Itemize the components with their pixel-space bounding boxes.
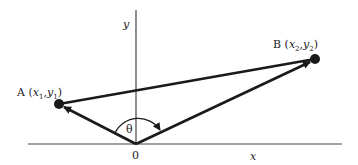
point-b-name: B [273,38,281,51]
y-axis-label: y [122,18,130,31]
angle-arc [115,118,160,133]
line-ab [59,59,315,104]
point-b-label: B (x2,y2) [273,38,318,53]
angle-label: θ [126,123,133,136]
point-a-label: A (x1,y1) [16,86,62,101]
x-axis-label: x [250,150,257,163]
origin-label: 0 [132,149,139,162]
point-b-dot [310,54,320,64]
vector-diagram: y x 0 θ A (x1,y1) B (x2,y2) [0,0,358,165]
